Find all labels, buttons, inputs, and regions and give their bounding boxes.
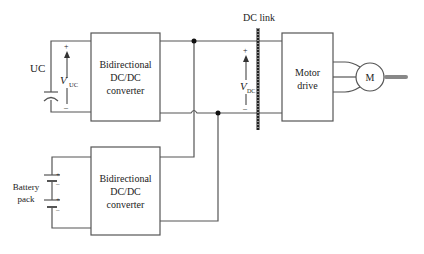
bottom-converter-line-1: Bidirectional: [99, 173, 151, 184]
vdc-arrowhead-icon: [243, 55, 249, 62]
motor-drive-line-2: drive: [297, 80, 318, 91]
phase-wire-a: [333, 62, 360, 67]
hybrid-energy-storage-diagram: UC + – V UC + – V DC DC link Bidirection…: [0, 0, 424, 254]
motor-drive-line-1: Motor: [295, 67, 321, 78]
uc-bottom-wire: [51, 100, 91, 112]
motor-label: M: [366, 72, 375, 83]
vdc-plus: +: [243, 46, 248, 55]
top-converter-line-1: Bidirectional: [99, 59, 151, 70]
vdc-minus: –: [242, 104, 248, 113]
junction-dot-negative: [216, 111, 221, 116]
junction-dot-positive: [192, 39, 197, 44]
dc-bus-negative: [160, 111, 282, 114]
battery-label-line-2: pack: [18, 194, 35, 204]
bottom-converter-line-3: converter: [107, 199, 145, 210]
phase-wire-c: [333, 87, 360, 92]
vdc-subscript: DC: [247, 88, 255, 94]
battery-cell-1-minus: –: [55, 180, 60, 188]
top-converter-line-3: converter: [107, 85, 145, 96]
battery-negative-link: [160, 113, 218, 221]
vuc-minus: –: [63, 103, 69, 112]
uc-label: UC: [30, 62, 45, 74]
vuc-subscript: UC: [69, 81, 78, 88]
battery-cell-1-plus: +: [56, 171, 60, 179]
vuc-plus: +: [64, 42, 69, 51]
battery-positive-link: [160, 41, 194, 157]
motor-shaft-icon: [384, 75, 408, 79]
battery-cell-2-plus: +: [56, 196, 60, 204]
bottom-converter-line-2: DC/DC: [110, 186, 141, 197]
battery-cell-2-minus: –: [55, 206, 60, 214]
vuc-arrowhead-icon: [64, 51, 70, 58]
top-converter-line-2: DC/DC: [110, 72, 141, 83]
battery-label-line-1: Battery: [13, 182, 40, 192]
dc-link-label: DC link: [243, 12, 275, 23]
